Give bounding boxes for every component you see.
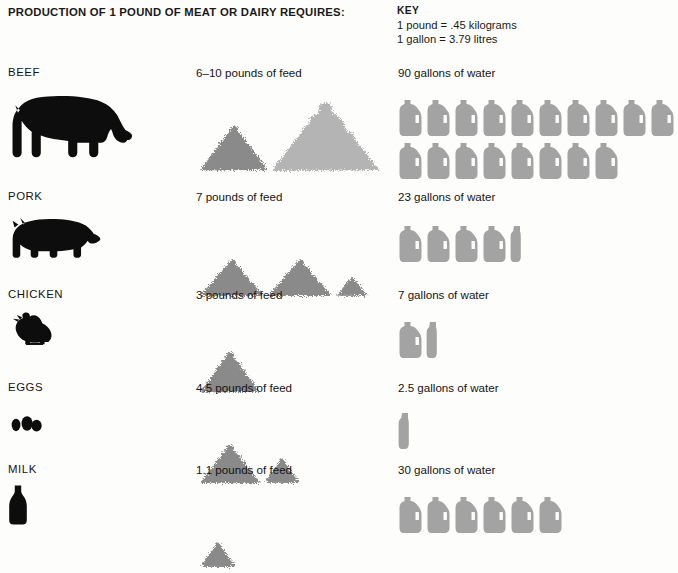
key-legend: KEY 1 pound = .45 kilograms 1 gallon = 3…	[397, 4, 517, 47]
product-icon	[6, 212, 101, 260]
product-icon	[6, 483, 30, 527]
water-jug-full-icon	[482, 98, 507, 138]
chicken-silhouette	[6, 308, 60, 348]
feed-label: 4.5 pounds of feed	[196, 381, 292, 394]
water-jug-full	[650, 98, 675, 138]
water-jug-full-icon	[538, 98, 563, 138]
water-jug-full	[398, 224, 423, 264]
water-jug-full-icon	[566, 141, 591, 181]
water-jug-full-icon	[566, 98, 591, 138]
water-jug-full	[426, 495, 451, 535]
water-jug-full-icon	[510, 141, 535, 181]
water-jug-full-icon	[426, 98, 451, 138]
water-jug-full-icon	[482, 224, 507, 264]
water-jug-full	[594, 98, 619, 138]
key-heading: KEY	[397, 4, 517, 18]
product-icon	[6, 308, 60, 348]
water-jug-full	[538, 495, 563, 535]
pig-silhouette	[6, 212, 101, 260]
feed-pile	[268, 96, 383, 174]
water-jug-full	[426, 141, 451, 181]
water-jug-full-icon	[398, 141, 423, 181]
water-jug-full-icon	[454, 495, 479, 535]
water-jug-full-icon	[482, 495, 507, 535]
product-label: BEEF	[8, 66, 40, 78]
water-jug-full-icon	[594, 98, 619, 138]
water-jug-full	[566, 141, 591, 181]
water-jug-full	[454, 141, 479, 181]
feed-pile	[332, 272, 372, 300]
product-label: CHICKEN	[8, 288, 63, 300]
product-icon	[6, 88, 134, 161]
water-jug-full	[398, 141, 423, 181]
water-jug-full-icon	[538, 141, 563, 181]
water-jug-partial-icon	[510, 224, 521, 264]
water-jug-full	[538, 98, 563, 138]
water-jug-full	[482, 141, 507, 181]
water-jug-full-icon	[426, 224, 451, 264]
water-jug-group	[398, 411, 412, 454]
water-jug-full-icon	[594, 141, 619, 181]
water-jug-full	[594, 141, 619, 181]
water-jug-full-icon	[398, 320, 423, 360]
water-jug-full-icon	[510, 98, 535, 138]
water-jug-full	[398, 320, 423, 360]
water-jug-full	[510, 495, 535, 535]
feed-label: 1.1 pounds of feed	[196, 463, 292, 476]
water-jug-full-icon	[454, 224, 479, 264]
water-jug-full	[454, 224, 479, 264]
water-jug-partial-icon	[426, 320, 437, 360]
feed-pile	[196, 537, 240, 571]
feed-label: 3 pounds of feed	[196, 288, 282, 301]
water-jug-full	[510, 98, 535, 138]
product-icon	[6, 411, 51, 433]
water-jug-full-icon	[398, 495, 423, 535]
water-jug-full-icon	[454, 98, 479, 138]
milk-bottle-silhouette	[6, 483, 30, 527]
water-jug-full-icon	[398, 224, 423, 264]
water-label: 23 gallons of water	[398, 190, 495, 203]
water-jug-full	[538, 141, 563, 181]
water-jug-full	[622, 98, 647, 138]
key-line-gallon: 1 gallon = 3.79 litres	[397, 32, 517, 46]
water-jug-full-icon	[510, 495, 535, 535]
product-label: EGGS	[8, 381, 43, 393]
water-jug-full	[426, 98, 451, 138]
water-jug-group	[398, 98, 678, 184]
water-jug-full-icon	[454, 141, 479, 181]
water-jug-full	[426, 224, 451, 264]
water-jug-full	[482, 98, 507, 138]
eggs-silhouette	[6, 411, 51, 433]
product-label: MILK	[8, 463, 37, 475]
water-jug-full-icon	[622, 98, 647, 138]
water-jug-full	[454, 495, 479, 535]
water-jug-partial	[398, 411, 409, 451]
feed-label: 6–10 pounds of feed	[196, 66, 302, 79]
water-jug-full-icon	[482, 141, 507, 181]
product-label: PORK	[8, 190, 42, 202]
key-line-pound: 1 pound = .45 kilograms	[397, 18, 517, 32]
water-jug-partial-icon	[398, 411, 409, 451]
water-label: 30 gallons of water	[398, 463, 495, 476]
water-jug-group	[398, 320, 440, 363]
water-label: 90 gallons of water	[398, 66, 495, 79]
water-jug-full-icon	[538, 495, 563, 535]
feed-pile-group	[196, 537, 240, 573]
page-title: PRODUCTION OF 1 POUND OF MEAT OR DAIRY R…	[8, 6, 345, 18]
cow-silhouette	[6, 88, 134, 161]
water-jug-partial	[426, 320, 437, 360]
water-jug-full	[482, 224, 507, 264]
feed-pile	[196, 120, 272, 174]
water-jug-full	[398, 495, 423, 535]
water-jug-full-icon	[426, 141, 451, 181]
water-jug-full-icon	[650, 98, 675, 138]
water-jug-full	[454, 98, 479, 138]
feed-label: 7 pounds of feed	[196, 190, 282, 203]
water-jug-full	[398, 98, 423, 138]
water-jug-partial	[510, 224, 521, 264]
feed-pile-group	[196, 96, 383, 176]
water-jug-full-icon	[426, 495, 451, 535]
water-jug-full	[482, 495, 507, 535]
water-jug-full-icon	[398, 98, 423, 138]
water-label: 7 gallons of water	[398, 288, 489, 301]
